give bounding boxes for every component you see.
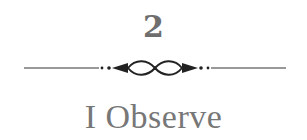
chapter-title: I Observe (0, 98, 307, 136)
chapter-number: 2 (0, 12, 307, 42)
flourish-divider-icon (24, 56, 286, 80)
